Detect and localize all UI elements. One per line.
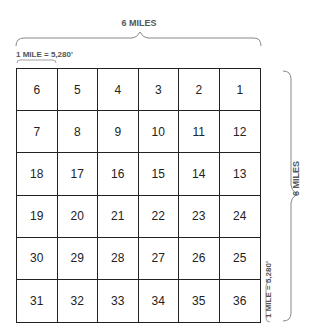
section-cell: 21 — [98, 196, 139, 238]
section-cell: 8 — [58, 111, 99, 153]
section-cell: 1 — [220, 69, 261, 111]
section-cell: 35 — [179, 280, 220, 322]
section-cell: 4 — [98, 69, 139, 111]
section-cell: 9 — [98, 111, 139, 153]
section-cell: 12 — [220, 111, 261, 153]
width-label: 6 MILES — [0, 18, 278, 28]
section-cell: 17 — [58, 153, 99, 195]
section-cell: 20 — [58, 196, 99, 238]
section-cell: 23 — [179, 196, 220, 238]
section-cell: 18 — [17, 153, 58, 195]
section-cell: 22 — [139, 196, 180, 238]
section-cell: 26 — [179, 238, 220, 280]
section-cell: 13 — [220, 153, 261, 195]
section-cell: 19 — [17, 196, 58, 238]
height-label: 6 MILES — [291, 161, 301, 196]
section-cell: 36 — [220, 280, 261, 322]
section-cell: 6 — [17, 69, 58, 111]
section-cell: 33 — [98, 280, 139, 322]
section-cell: 16 — [98, 153, 139, 195]
section-cell: 5 — [58, 69, 99, 111]
section-cell: 34 — [139, 280, 180, 322]
section-cell: 27 — [139, 238, 180, 280]
section-cell: 14 — [179, 153, 220, 195]
mile-scale-label-side: 1 MILE = 5,280' — [264, 261, 273, 318]
section-cell: 15 — [139, 153, 180, 195]
section-cell: 11 — [179, 111, 220, 153]
section-cell: 7 — [17, 111, 58, 153]
section-cell: 25 — [220, 238, 261, 280]
section-cell: 30 — [17, 238, 58, 280]
section-cell: 2 — [179, 69, 220, 111]
section-cell: 24 — [220, 196, 261, 238]
section-cell: 28 — [98, 238, 139, 280]
section-cell: 29 — [58, 238, 99, 280]
section-cell: 10 — [139, 111, 180, 153]
section-cell: 3 — [139, 69, 180, 111]
section-cell: 31 — [17, 280, 58, 322]
township-grid: 6 5 4 3 2 1 7 8 9 10 11 12 18 17 16 15 1… — [16, 68, 261, 323]
mile-scale-label-top: 1 MILE = 5,280' — [16, 50, 73, 59]
section-cell: 32 — [58, 280, 99, 322]
